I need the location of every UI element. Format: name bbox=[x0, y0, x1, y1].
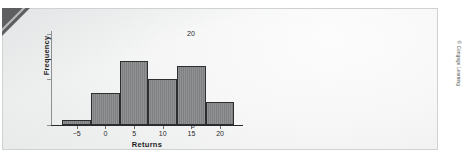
x-tick-mark bbox=[134, 126, 135, 129]
page-fold-corner-icon bbox=[2, 8, 30, 36]
x-tick-label: 20 bbox=[208, 130, 232, 138]
x-tick-mark bbox=[77, 126, 78, 129]
x-tick-mark bbox=[220, 126, 221, 129]
x-tick-mark bbox=[105, 126, 106, 129]
figure-panel: 01020 Frequency −505101520 Returns bbox=[2, 8, 438, 150]
screenshot-root: 01020 Frequency −505101520 Returns © Cen… bbox=[0, 0, 462, 159]
x-tick-mark bbox=[163, 126, 164, 129]
x-tick-label: 10 bbox=[151, 130, 175, 138]
copyright-notice: © Cengage Learning bbox=[456, 41, 461, 86]
histogram-bar bbox=[206, 102, 235, 125]
histogram-bar bbox=[120, 61, 149, 125]
histogram-bar bbox=[91, 93, 120, 125]
histogram-bar bbox=[177, 66, 206, 125]
x-tick-label: 15 bbox=[179, 130, 203, 138]
x-tick-label: 5 bbox=[122, 130, 146, 138]
x-axis-line bbox=[51, 125, 243, 126]
histogram-plot: 01020 Frequency −505101520 Returns bbox=[51, 29, 251, 129]
y-tick-mark bbox=[47, 79, 52, 80]
x-tick-mark bbox=[191, 126, 192, 129]
y-tick-label: 20 bbox=[171, 30, 195, 37]
x-tick-label: −5 bbox=[65, 130, 89, 138]
x-axis-title: Returns bbox=[51, 140, 243, 149]
y-axis-title: Frequency bbox=[42, 36, 51, 76]
x-tick-label: 0 bbox=[93, 130, 117, 138]
histogram-bar bbox=[148, 79, 177, 125]
